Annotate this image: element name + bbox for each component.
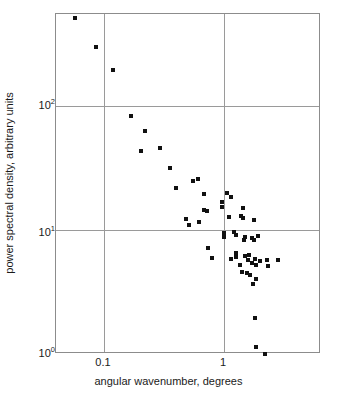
data-point <box>227 215 231 219</box>
data-point <box>197 220 201 224</box>
data-point <box>220 200 224 204</box>
data-point <box>94 45 98 49</box>
data-point <box>253 316 257 320</box>
data-point <box>143 129 147 133</box>
data-point <box>251 282 255 286</box>
data-point <box>229 257 233 261</box>
plot-frame <box>55 13 320 353</box>
data-point <box>241 206 245 210</box>
y-axis-label-container: power spectral density, arbitrary units <box>0 13 18 353</box>
x-tick-label-1: 1 <box>203 356 243 369</box>
data-point <box>265 258 269 262</box>
data-point <box>210 256 214 260</box>
y-gridline-100 <box>56 106 319 107</box>
data-point <box>206 246 210 250</box>
data-point <box>240 270 244 274</box>
y-tick-label-1: 100 <box>39 347 55 359</box>
data-point <box>247 253 251 257</box>
data-point <box>242 238 246 242</box>
data-point <box>205 209 209 213</box>
x-gridline-1 <box>224 14 225 352</box>
data-point <box>250 261 254 265</box>
data-point <box>276 258 280 262</box>
data-point <box>139 149 143 153</box>
x-tick-label-0p1: 0.1 <box>83 356 123 369</box>
data-point <box>229 195 233 199</box>
data-point <box>174 186 178 190</box>
y-gridline-10 <box>56 230 319 231</box>
data-point <box>252 218 256 222</box>
data-point <box>187 223 191 227</box>
x-gridline-0p1 <box>104 14 105 352</box>
plot-area <box>56 14 319 352</box>
data-point <box>234 255 238 259</box>
data-point <box>222 235 226 239</box>
data-point <box>225 191 229 195</box>
y-tick-label-10: 101 <box>39 226 55 238</box>
data-point <box>196 177 200 181</box>
figure-container: power spectral density, arbitrary units … <box>0 0 337 403</box>
data-point <box>129 114 133 118</box>
data-point <box>258 259 262 263</box>
data-point <box>254 277 258 281</box>
data-point <box>266 264 270 268</box>
data-point <box>158 146 162 150</box>
data-point <box>256 234 260 238</box>
data-point <box>253 257 257 261</box>
data-point <box>234 233 238 237</box>
y-tick-label-100: 102 <box>39 99 55 111</box>
data-point <box>238 263 242 267</box>
data-point <box>248 273 252 277</box>
data-point <box>220 205 224 209</box>
y-axis-label: power spectral density, arbitrary units <box>2 92 16 273</box>
data-point <box>202 192 206 196</box>
data-point <box>168 166 172 170</box>
data-point <box>73 16 77 20</box>
data-point <box>111 68 115 72</box>
data-point <box>263 352 267 356</box>
data-point <box>252 238 256 242</box>
data-point <box>254 345 258 349</box>
data-point <box>184 217 188 221</box>
data-point <box>241 216 245 220</box>
x-axis-label: angular wavenumber, degrees <box>0 374 337 388</box>
data-point <box>254 263 258 267</box>
